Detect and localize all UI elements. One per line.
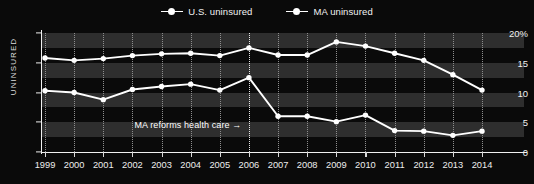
reform-annotation: MA reforms health care → [134,120,241,130]
y-tick-mark [36,151,41,152]
data-point[interactable] [188,51,193,56]
x-tick-label-2006: 2006 [239,160,260,170]
x-tick-mark [278,152,279,157]
x-tick-mark [45,152,46,157]
x-tick-mark [191,152,192,157]
x-tick-label-2007: 2007 [268,160,289,170]
uninsured-rate-chart: U.S. uninsured MA uninsured UNINSURED 05… [0,0,534,184]
x-tick-label-2012: 2012 [413,160,434,170]
data-point[interactable] [421,128,426,133]
data-point[interactable] [334,39,339,44]
x-tick-mark [249,152,250,157]
data-point[interactable] [275,114,280,119]
x-axis-line [41,152,527,153]
series-line-us-uninsured [45,42,482,90]
x-tick-label-2001: 2001 [93,160,114,170]
data-point[interactable] [42,88,47,93]
data-point[interactable] [71,58,76,63]
x-tick-mark [336,152,337,157]
x-tick-label-2004: 2004 [180,160,201,170]
y-axis-line [41,30,42,154]
x-tick-mark [307,152,308,157]
data-point[interactable] [246,45,251,50]
data-point[interactable] [363,112,368,117]
x-tick-label-2014: 2014 [472,160,493,170]
x-tick-label-2013: 2013 [443,160,464,170]
data-point[interactable] [101,56,106,61]
data-point[interactable] [305,114,310,119]
line-dot-marker-icon [286,7,308,16]
y-tick-label-20%: 20% [509,28,528,39]
data-point[interactable] [392,128,397,133]
data-point[interactable] [392,51,397,56]
data-point[interactable] [421,58,426,63]
y-axis-title: UNINSURED [9,28,18,106]
x-tick-label-2010: 2010 [355,160,376,170]
x-tick-mark [162,152,163,157]
y-tick-label-10: 10 [517,87,528,98]
data-point[interactable] [305,52,310,57]
legend-label-us-uninsured: U.S. uninsured [188,6,252,17]
data-point[interactable] [246,75,251,80]
data-point[interactable] [450,133,455,138]
plot-area [41,33,524,152]
legend-entry-us-uninsured[interactable]: U.S. uninsured [161,6,252,17]
y-tick-mark [36,32,41,33]
data-point[interactable] [159,84,164,89]
x-tick-mark [365,152,366,157]
y-tick-label-15: 15 [517,57,528,68]
data-point[interactable] [479,87,484,92]
data-point[interactable] [159,51,164,56]
y-tick-label-0: 0 [523,147,528,158]
data-point[interactable] [363,43,368,48]
data-point[interactable] [188,81,193,86]
data-point[interactable] [217,53,222,58]
x-tick-mark [453,152,454,157]
x-tick-mark [395,152,396,157]
legend-entry-ma-uninsured[interactable]: MA uninsured [286,6,372,17]
data-point[interactable] [42,55,47,60]
x-tick-label-2002: 2002 [122,160,143,170]
x-tick-mark [103,152,104,157]
x-tick-mark [74,152,75,157]
series-line-ma-uninsured [45,78,482,136]
data-point[interactable] [275,52,280,57]
x-tick-label-2011: 2011 [385,160,405,170]
legend-label-ma-uninsured: MA uninsured [313,6,372,17]
series-layer [41,33,524,152]
x-tick-mark [424,152,425,157]
x-tick-label-2003: 2003 [151,160,172,170]
data-point[interactable] [217,87,222,92]
x-tick-label-2009: 2009 [326,160,347,170]
data-point[interactable] [101,97,106,102]
chart-legend: U.S. uninsured MA uninsured [0,2,534,20]
x-tick-label-2005: 2005 [209,160,230,170]
data-point[interactable] [450,72,455,77]
x-tick-label-2000: 2000 [64,160,85,170]
data-point[interactable] [130,53,135,58]
y-tick-mark [36,92,41,93]
x-tick-label-1999: 1999 [35,160,56,170]
y-tick-mark [36,62,41,63]
data-point[interactable] [334,119,339,124]
data-point[interactable] [130,87,135,92]
x-tick-mark [220,152,221,157]
x-tick-mark [132,152,133,157]
x-tick-label-2008: 2008 [297,160,318,170]
data-point[interactable] [71,90,76,95]
x-tick-mark [482,152,483,157]
y-tick-mark [36,122,41,123]
line-dot-marker-icon [161,7,183,16]
data-point[interactable] [479,128,484,133]
y-tick-label-5: 5 [523,117,528,128]
